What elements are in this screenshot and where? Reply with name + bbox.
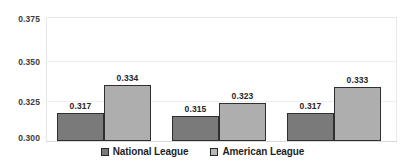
bar-value-label-american-league-1: 0.334 bbox=[105, 73, 151, 83]
bar-value-label-national-league-2: 0.315 bbox=[173, 104, 219, 114]
bar-american-league-2[interactable] bbox=[219, 103, 266, 141]
y-tick-label-0.300: 0.300 bbox=[0, 133, 40, 143]
bars-layer: 0.317 0.334 0.315 0.323 0.317 0.333 bbox=[47, 18, 396, 141]
bar-group-3: 0.317 0.333 bbox=[287, 18, 387, 141]
legend-item-national-league[interactable]: National League bbox=[101, 146, 189, 157]
y-tick-label-0.375: 0.375 bbox=[0, 14, 40, 24]
legend-swatch-icon-national-league bbox=[101, 148, 109, 156]
bar-value-label-american-league-2: 0.323 bbox=[220, 91, 266, 101]
bar-group-2: 0.315 0.323 bbox=[172, 18, 272, 141]
bar-group-1: 0.317 0.334 bbox=[57, 18, 157, 141]
axis-baseline bbox=[46, 141, 397, 142]
legend-swatch-icon-american-league bbox=[210, 148, 218, 156]
bar-value-label-american-league-3: 0.333 bbox=[335, 75, 381, 85]
bar-american-league-1[interactable] bbox=[104, 85, 151, 141]
bar-value-label-national-league-1: 0.317 bbox=[58, 101, 104, 111]
legend-label-national-league: National League bbox=[113, 146, 189, 157]
y-tick-label-0.325: 0.325 bbox=[0, 97, 40, 107]
legend-item-american-league[interactable]: American League bbox=[210, 146, 304, 157]
bar-national-league-2[interactable] bbox=[172, 116, 219, 141]
chart-legend: National League American League bbox=[0, 146, 405, 157]
legend-label-american-league: American League bbox=[222, 146, 304, 157]
bar-national-league-1[interactable] bbox=[57, 113, 104, 141]
y-tick-label-0.350: 0.350 bbox=[0, 57, 40, 67]
bar-value-label-national-league-3: 0.317 bbox=[288, 101, 334, 111]
bar-american-league-3[interactable] bbox=[334, 87, 381, 141]
bar-chart: 0.375 0.350 0.325 0.300 0.317 0.334 0.31… bbox=[0, 0, 405, 168]
bar-national-league-3[interactable] bbox=[287, 113, 334, 141]
chart-title-cropped bbox=[0, 0, 405, 5]
